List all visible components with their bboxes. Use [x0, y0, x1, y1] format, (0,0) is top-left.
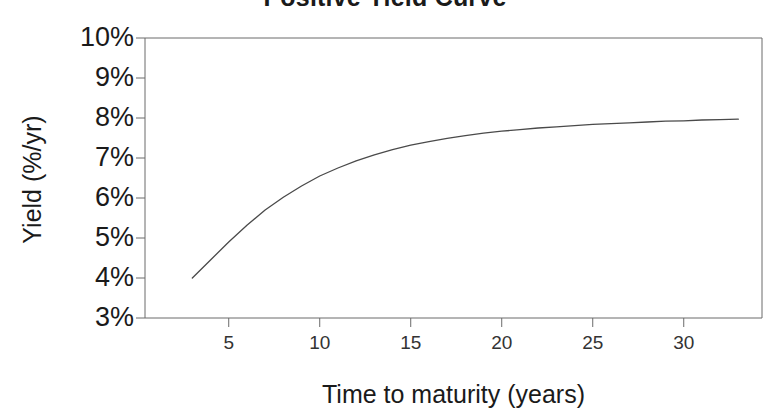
yield-curve-line [192, 119, 738, 278]
chart-figure: Positive Yield Curve Yield (%/yr) Time t… [0, 0, 770, 419]
axis-spines [145, 38, 762, 318]
axis-ticks [136, 38, 684, 327]
plot-area [0, 0, 770, 419]
